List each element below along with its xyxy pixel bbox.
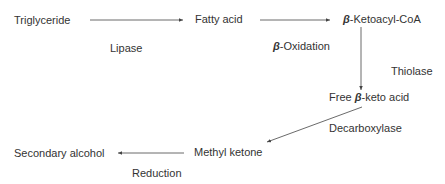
node-ketoacyl-coa: β-Ketoacyl-CoA (343, 13, 421, 26)
node-free-keto-acid: Free β-keto acid (329, 91, 409, 104)
oxidation-label: -Oxidation (280, 40, 330, 52)
keto-acid-label: -keto acid (362, 91, 410, 103)
node-triglyceride: Triglyceride (14, 14, 70, 27)
enzyme-thiolase: Thiolase (391, 65, 433, 78)
node-fatty-acid: Fatty acid (195, 13, 243, 26)
enzyme-reduction: Reduction (132, 167, 182, 180)
free-label: Free (329, 91, 355, 103)
node-methyl-ketone: Methyl ketone (194, 146, 262, 159)
pathway-diagram: Triglyceride Fatty acid β-Ketoacyl-CoA F… (0, 0, 445, 184)
node-secondary-alcohol: Secondary alcohol (14, 147, 105, 160)
ketoacyl-label: -Ketoacyl-CoA (350, 13, 421, 25)
enzyme-beta-oxidation: β-Oxidation (273, 40, 330, 53)
beta-symbol: β (343, 13, 350, 25)
beta-symbol: β (355, 91, 362, 103)
enzyme-decarboxylase: Decarboxylase (329, 122, 402, 135)
enzyme-lipase: Lipase (110, 42, 142, 55)
beta-symbol: β (273, 40, 280, 52)
